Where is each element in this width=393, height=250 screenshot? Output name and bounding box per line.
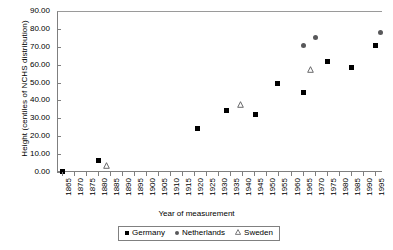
x-axis-tick-label: 1995 xyxy=(378,178,386,196)
x-axis-tick-mark xyxy=(98,172,99,176)
x-axis-tick-mark xyxy=(242,172,243,176)
legend-item-sweden: Sweden xyxy=(235,228,273,238)
x-axis-tick-mark xyxy=(74,172,75,176)
plot-area xyxy=(57,11,382,172)
x-axis-tick-label: 1900 xyxy=(149,178,157,196)
data-point-sweden xyxy=(307,66,314,73)
x-axis-tick-label: 1870 xyxy=(77,178,85,196)
x-axis-tick-mark xyxy=(315,172,316,176)
x-axis-tick-mark xyxy=(134,172,135,176)
x-axis-tick-mark xyxy=(327,172,328,176)
y-axis-tick-label: 90.00 xyxy=(4,7,50,15)
x-axis-tick-label: 1985 xyxy=(354,178,362,196)
x-axis-tick-label: 1925 xyxy=(209,178,217,196)
data-point-germany xyxy=(349,65,354,70)
x-axis-tick-label: 1930 xyxy=(221,178,229,196)
x-axis-tick-label: 1865 xyxy=(65,178,73,196)
x-axis-tick-mark xyxy=(86,172,87,176)
x-axis-tick-label: 1910 xyxy=(173,178,181,196)
x-axis-tick-mark xyxy=(375,172,376,176)
x-axis-tick-label: 1885 xyxy=(113,178,121,196)
chart-legend: Germany Netherlands Sweden xyxy=(118,226,280,241)
open-triangle-icon xyxy=(235,228,241,238)
x-axis-tick-label: 1970 xyxy=(318,178,326,196)
x-axis-tick-label: 1945 xyxy=(257,178,265,196)
x-axis-tick-label: 1920 xyxy=(197,178,205,196)
x-axis-tick-label: 1880 xyxy=(101,178,109,196)
x-axis-tick-label: 1980 xyxy=(342,178,350,196)
data-point-germany xyxy=(325,59,330,64)
x-axis-tick-mark xyxy=(182,172,183,176)
y-axis-tick-label: 20.00 xyxy=(4,132,50,140)
data-point-germany xyxy=(195,126,200,131)
x-axis-tick-mark xyxy=(351,172,352,176)
x-axis-tick-label: 1990 xyxy=(366,178,374,196)
filled-circle-icon xyxy=(175,231,179,235)
x-axis-tick-mark xyxy=(278,172,279,176)
x-axis-tick-label: 1960 xyxy=(294,178,302,196)
y-axis-tick-label: 50.00 xyxy=(4,79,50,87)
data-points-layer xyxy=(58,12,382,171)
data-point-netherlands xyxy=(313,35,318,40)
x-axis-tick-mark xyxy=(303,172,304,176)
x-axis-tick-label: 1940 xyxy=(245,178,253,196)
x-axis-tick-label: 1915 xyxy=(185,178,193,196)
y-axis-tick-label: 60.00 xyxy=(4,61,50,69)
x-axis-tick-mark xyxy=(146,172,147,176)
x-axis-tick-label: 1890 xyxy=(125,178,133,196)
data-point-sweden xyxy=(237,101,244,108)
data-point-germany xyxy=(96,158,101,163)
x-axis-tick-mark xyxy=(339,172,340,176)
x-axis-tick-mark xyxy=(266,172,267,176)
y-axis-tick-label: 10.00 xyxy=(4,150,50,158)
x-axis-tick-mark xyxy=(206,172,207,176)
data-point-germany xyxy=(275,81,280,86)
x-axis-tick-label: 1955 xyxy=(281,178,289,196)
y-axis-tick-label: 30.00 xyxy=(4,114,50,122)
y-axis-tick-label: 0.00 xyxy=(4,168,50,176)
y-axis-tick-label: 40.00 xyxy=(4,96,50,104)
data-point-sweden xyxy=(103,162,110,169)
legend-item-netherlands: Netherlands xyxy=(175,228,225,238)
chart-container: Height (centiles of NCHS distribution) 9… xyxy=(0,0,393,250)
x-axis-title: Year of measurement xyxy=(0,209,393,218)
x-axis-tick-label: 1935 xyxy=(233,178,241,196)
data-point-germany xyxy=(301,90,306,95)
x-axis-tick-mark xyxy=(363,172,364,176)
x-axis-tick-label: 1895 xyxy=(137,178,145,196)
x-axis-tick-mark xyxy=(254,172,255,176)
data-point-germany xyxy=(253,112,258,117)
x-axis-tick-mark xyxy=(122,172,123,176)
y-axis-tick-label: 80.00 xyxy=(4,25,50,33)
x-axis-tick-label: 1875 xyxy=(89,178,97,196)
data-point-germany xyxy=(224,108,229,113)
data-point-netherlands xyxy=(378,30,383,35)
data-point-netherlands xyxy=(301,43,306,48)
legend-label-netherlands: Netherlands xyxy=(182,228,225,238)
filled-square-icon xyxy=(125,231,129,235)
x-axis-tick-mark xyxy=(62,172,63,176)
legend-label-sweden: Sweden xyxy=(244,228,273,238)
x-axis-tick-label: 1975 xyxy=(330,178,338,196)
x-axis-tick-mark xyxy=(230,172,231,176)
x-axis-tick-mark xyxy=(218,172,219,176)
x-axis-tick-mark xyxy=(170,172,171,176)
x-axis-tick-mark xyxy=(194,172,195,176)
x-axis-tick-label: 1965 xyxy=(306,178,314,196)
legend-label-germany: Germany xyxy=(132,228,165,238)
legend-item-germany: Germany xyxy=(125,228,165,238)
x-axis-tick-label: 1950 xyxy=(269,178,277,196)
data-point-germany xyxy=(373,43,378,48)
x-axis-tick-mark xyxy=(291,172,292,176)
x-axis-tick-mark xyxy=(158,172,159,176)
y-axis-tick-label: 70.00 xyxy=(4,43,50,51)
x-axis-tick-label: 1905 xyxy=(161,178,169,196)
x-axis-tick-mark xyxy=(110,172,111,176)
